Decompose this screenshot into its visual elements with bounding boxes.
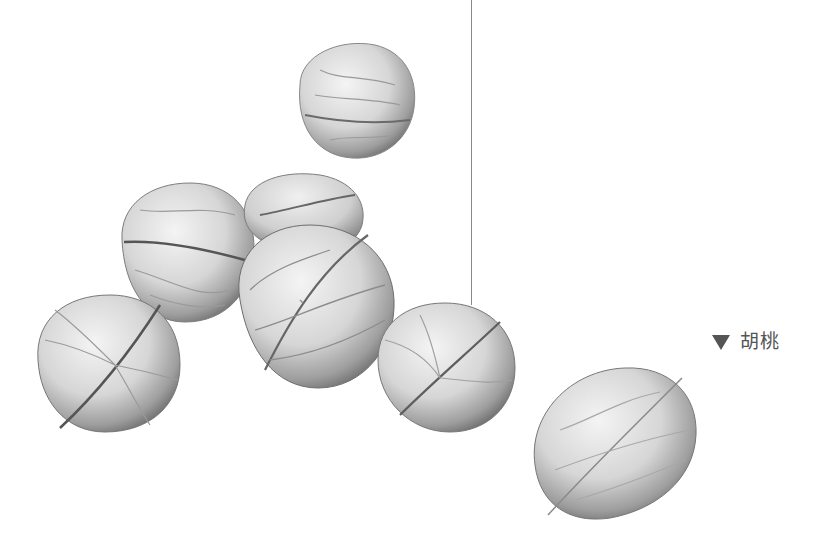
- walnut-center-large: [239, 225, 394, 388]
- walnut-bottom-right: [534, 368, 696, 519]
- label-pointer-line: [471, 0, 472, 305]
- label-text: 胡桃: [740, 330, 780, 352]
- walnut-right-middle: [378, 303, 515, 432]
- walnut-illustration: 胡桃: [0, 0, 818, 554]
- walnut-label: 胡桃: [712, 330, 780, 352]
- walnut-top: [300, 43, 415, 158]
- walnut-bottom-left: [38, 295, 180, 432]
- walnuts-image: [0, 0, 818, 554]
- triangle-down-icon: [712, 335, 730, 350]
